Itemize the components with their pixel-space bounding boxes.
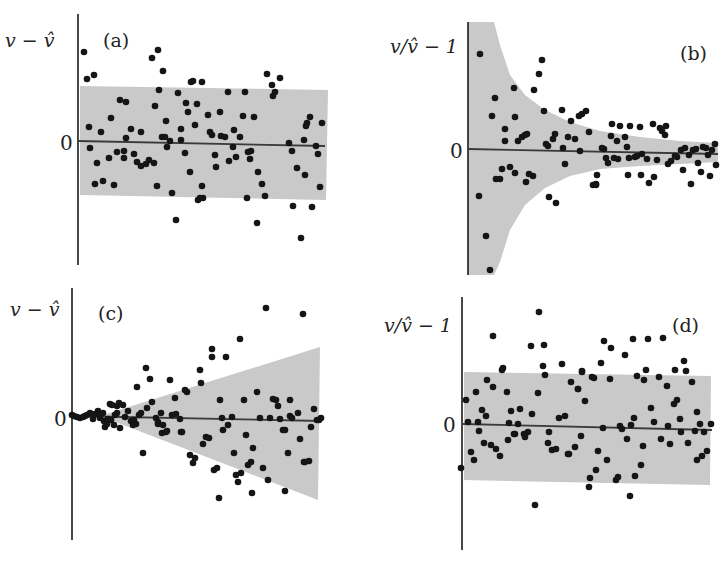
data-point — [525, 429, 532, 436]
data-point — [182, 150, 189, 157]
panel-tag-a: (a) — [103, 29, 129, 51]
data-point — [277, 75, 284, 82]
data-point — [123, 99, 130, 106]
data-point — [219, 415, 226, 422]
data-point — [262, 193, 269, 200]
data-point — [149, 399, 156, 406]
data-point — [244, 195, 251, 202]
data-point — [568, 379, 575, 386]
data-point — [206, 435, 213, 442]
data-point — [674, 397, 681, 404]
data-point — [492, 95, 499, 102]
data-point — [628, 422, 635, 429]
panel-tag-d: (d) — [672, 314, 699, 336]
data-point — [158, 410, 165, 417]
data-point — [481, 440, 488, 447]
data-point — [490, 333, 497, 340]
data-point — [587, 475, 594, 482]
data-point — [505, 437, 512, 444]
data-point — [552, 131, 559, 138]
data-point — [214, 465, 221, 472]
data-point — [160, 422, 167, 429]
data-point — [645, 336, 652, 343]
data-point — [499, 166, 506, 173]
data-point — [542, 372, 549, 379]
data-point — [604, 457, 611, 464]
data-point — [523, 179, 530, 186]
data-point — [307, 114, 314, 121]
data-point — [302, 172, 309, 179]
data-point — [695, 160, 702, 167]
data-point — [237, 134, 244, 141]
data-point — [562, 413, 569, 420]
data-point — [121, 155, 128, 162]
data-point — [568, 118, 575, 125]
data-point — [304, 120, 311, 127]
data-point — [579, 369, 586, 376]
data-point — [156, 87, 163, 94]
data-point — [259, 181, 266, 188]
data-point — [178, 137, 185, 144]
data-point — [508, 408, 515, 415]
data-point — [583, 108, 590, 115]
data-point — [682, 145, 689, 152]
data-point — [151, 160, 158, 167]
data-point — [187, 169, 194, 176]
data-point — [179, 429, 186, 436]
data-point — [712, 141, 719, 148]
data-point — [164, 428, 171, 435]
data-point — [497, 176, 504, 183]
data-point — [167, 138, 174, 145]
data-point — [639, 151, 646, 158]
data-point — [591, 375, 598, 382]
data-point — [173, 217, 180, 224]
data-point — [665, 423, 672, 430]
data-point — [605, 160, 612, 167]
data-point — [699, 453, 706, 460]
data-point — [216, 495, 223, 502]
data-point — [532, 502, 539, 509]
data-point — [600, 425, 607, 432]
data-point — [237, 336, 244, 343]
data-point — [458, 465, 465, 472]
data-point — [92, 181, 99, 188]
ylabel-b: v/v̂ − 1 — [390, 35, 458, 57]
data-point — [160, 68, 167, 75]
data-point — [540, 363, 547, 370]
data-point — [572, 136, 579, 143]
data-point — [217, 109, 224, 116]
data-point — [631, 415, 638, 422]
data-point — [164, 144, 171, 151]
data-point — [465, 419, 472, 426]
data-point — [131, 151, 138, 158]
data-point — [493, 446, 500, 453]
data-point — [539, 57, 546, 64]
data-point — [593, 467, 600, 474]
zero-tick-a: 0 — [60, 131, 73, 155]
data-point — [289, 148, 296, 155]
data-point — [175, 90, 182, 97]
data-point — [484, 377, 491, 384]
data-point — [601, 146, 608, 153]
data-point — [524, 131, 531, 138]
data-point — [114, 149, 121, 156]
data-point — [680, 167, 687, 174]
data-point — [545, 440, 552, 447]
data-point — [692, 428, 699, 435]
data-point — [643, 367, 650, 374]
data-point — [184, 389, 191, 396]
data-point — [656, 374, 663, 381]
data-point — [241, 397, 248, 404]
data-point — [200, 195, 207, 202]
data-point — [689, 379, 696, 386]
data-point — [309, 204, 316, 211]
data-point — [651, 419, 658, 426]
data-point — [183, 100, 190, 107]
data-point — [172, 395, 179, 402]
panel-d: v/v̂ − 1 (d) 0 — [384, 297, 714, 550]
data-point — [667, 441, 674, 448]
data-point — [247, 156, 254, 163]
data-point — [152, 103, 159, 110]
data-point — [295, 410, 302, 417]
data-point — [556, 415, 563, 422]
